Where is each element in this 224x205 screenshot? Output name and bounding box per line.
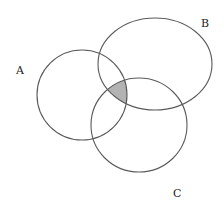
set-c-circle (91, 78, 187, 172)
set-a-label: A (15, 64, 25, 77)
venn-diagram: A B C (0, 0, 224, 205)
set-b-label: B (201, 17, 209, 30)
set-c-label: C (173, 187, 181, 200)
